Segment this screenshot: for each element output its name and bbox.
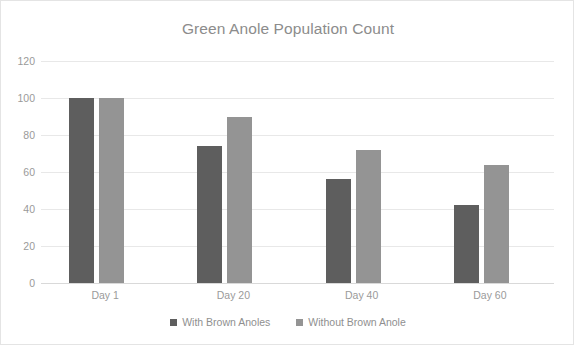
x-axis-tick-label: Day 40	[302, 289, 422, 301]
chart-title: Green Anole Population Count	[1, 20, 574, 38]
y-axis-tick-label: 0	[1, 278, 35, 288]
y-axis-tick-label: 80	[1, 130, 35, 140]
bar[interactable]	[99, 98, 124, 283]
bar[interactable]	[484, 165, 509, 283]
legend-item[interactable]: Without Brown Anole	[296, 316, 405, 328]
bar-group	[69, 61, 124, 283]
y-axis-tick-label: 120	[1, 56, 35, 66]
legend-swatch-icon	[170, 319, 177, 326]
legend-swatch-icon	[296, 319, 303, 326]
legend-label: With Brown Anoles	[182, 316, 270, 328]
x-axis-tick-label: Day 1	[45, 289, 165, 301]
plot-area	[41, 61, 554, 283]
chart-container: Green Anole Population Count 02040608010…	[0, 0, 574, 345]
chart-legend: With Brown AnolesWithout Brown Anole	[1, 316, 574, 328]
bar[interactable]	[69, 98, 94, 283]
y-axis-tick-label: 100	[1, 93, 35, 103]
bar[interactable]	[454, 205, 479, 283]
bar-group	[197, 61, 252, 283]
x-axis-tick-label: Day 60	[430, 289, 550, 301]
y-axis-tick-label: 20	[1, 241, 35, 251]
bar[interactable]	[227, 117, 252, 284]
y-axis-tick-label: 60	[1, 167, 35, 177]
x-axis-tick-label: Day 20	[173, 289, 293, 301]
bar-group	[454, 61, 509, 283]
gridline	[41, 283, 554, 284]
y-axis-tick-label: 40	[1, 204, 35, 214]
bar[interactable]	[326, 179, 351, 283]
bar[interactable]	[356, 150, 381, 283]
legend-label: Without Brown Anole	[308, 316, 405, 328]
legend-item[interactable]: With Brown Anoles	[170, 316, 270, 328]
bar-group	[326, 61, 381, 283]
bar[interactable]	[197, 146, 222, 283]
